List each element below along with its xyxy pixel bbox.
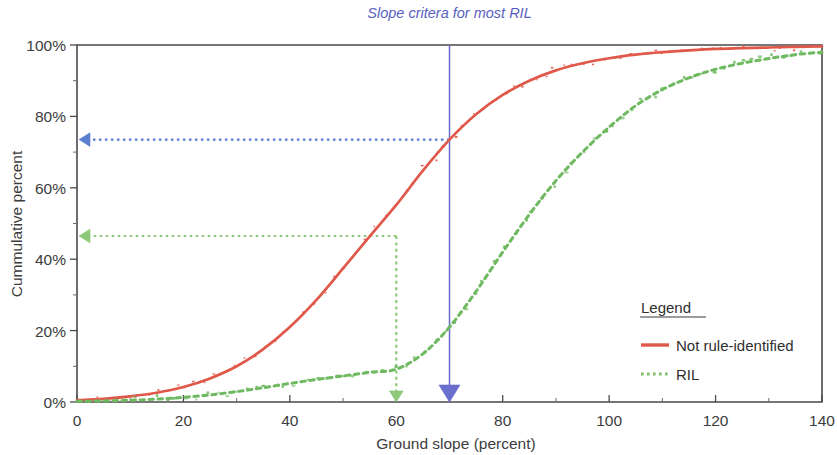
data-point bbox=[781, 56, 786, 59]
x-tick-label: 100 bbox=[596, 412, 622, 429]
data-point bbox=[421, 165, 424, 167]
y-tick-label: 100% bbox=[26, 37, 66, 54]
data-point bbox=[631, 109, 634, 112]
data-point bbox=[711, 47, 713, 49]
data-point bbox=[700, 48, 703, 50]
data-point bbox=[233, 390, 238, 392]
data-point bbox=[689, 76, 694, 79]
data-point bbox=[182, 386, 185, 388]
data-point bbox=[227, 370, 229, 372]
data-point bbox=[605, 130, 608, 133]
data-point bbox=[394, 365, 397, 368]
data-point bbox=[660, 52, 663, 54]
data-point bbox=[506, 93, 509, 95]
data-point bbox=[184, 397, 188, 400]
data-point bbox=[406, 190, 409, 192]
data-point bbox=[435, 338, 439, 341]
data-point bbox=[513, 85, 515, 87]
data-point bbox=[342, 375, 345, 378]
data-point bbox=[306, 378, 309, 380]
data-point bbox=[381, 369, 385, 371]
data-point bbox=[296, 319, 299, 321]
data-point bbox=[493, 260, 497, 263]
data-point bbox=[282, 331, 284, 333]
data-point bbox=[264, 346, 267, 348]
x-axis-title: Ground slope (percent) bbox=[376, 435, 535, 452]
data-point bbox=[435, 159, 437, 161]
data-point bbox=[424, 350, 427, 352]
data-point bbox=[564, 171, 569, 173]
data-point bbox=[592, 63, 594, 65]
legend-item-label: Not rule-identified bbox=[676, 337, 794, 354]
y-tick-label: 60% bbox=[35, 180, 66, 197]
data-point bbox=[473, 113, 475, 115]
data-point bbox=[333, 276, 335, 278]
data-point bbox=[563, 64, 565, 66]
data-point bbox=[441, 145, 444, 147]
data-point bbox=[593, 137, 597, 139]
data-point bbox=[800, 50, 803, 53]
data-point bbox=[536, 78, 538, 80]
data-point bbox=[569, 162, 573, 165]
data-point bbox=[316, 377, 320, 379]
data-point bbox=[313, 303, 316, 305]
data-point bbox=[770, 53, 773, 56]
data-point bbox=[455, 136, 458, 138]
data-point bbox=[654, 96, 657, 99]
data-point bbox=[451, 321, 456, 324]
y-axis-title: Cummulative percent bbox=[8, 150, 25, 297]
data-point bbox=[480, 280, 484, 282]
data-point bbox=[713, 71, 717, 74]
data-point bbox=[302, 311, 305, 313]
data-point bbox=[325, 377, 328, 380]
data-point bbox=[788, 54, 792, 57]
data-point bbox=[570, 64, 573, 66]
data-point bbox=[621, 116, 625, 119]
data-point bbox=[521, 86, 524, 88]
data-point bbox=[206, 391, 209, 394]
data-point bbox=[413, 356, 416, 358]
data-point bbox=[529, 210, 534, 213]
data-point bbox=[373, 370, 376, 373]
data-point bbox=[683, 76, 686, 79]
data-point bbox=[699, 73, 702, 75]
data-point bbox=[364, 371, 369, 374]
data-point bbox=[281, 386, 284, 388]
data-point bbox=[325, 292, 327, 294]
data-point bbox=[604, 59, 606, 61]
data-point bbox=[583, 151, 586, 153]
y-tick-label: 40% bbox=[35, 251, 66, 268]
data-point bbox=[234, 365, 236, 367]
data-point bbox=[225, 395, 229, 397]
data-point bbox=[669, 50, 671, 52]
data-point bbox=[445, 329, 448, 332]
data-point bbox=[619, 57, 622, 59]
data-point bbox=[722, 67, 725, 70]
data-point bbox=[773, 50, 776, 52]
data-point bbox=[629, 53, 632, 55]
data-point bbox=[681, 49, 684, 51]
data-point bbox=[261, 385, 266, 387]
data-point bbox=[483, 108, 485, 110]
data-point bbox=[350, 375, 354, 378]
data-point bbox=[749, 58, 754, 60]
data-point bbox=[742, 45, 745, 47]
data-point bbox=[778, 47, 781, 49]
data-point bbox=[464, 308, 469, 311]
data-point bbox=[195, 398, 198, 400]
chart-figure: Slope critera for most RIL 0204060801001… bbox=[0, 0, 837, 455]
data-point bbox=[583, 63, 585, 65]
legend-item-label: RIL bbox=[676, 366, 699, 383]
y-tick-label: 80% bbox=[35, 108, 66, 125]
data-point bbox=[803, 46, 805, 48]
x-tick-label: 140 bbox=[809, 412, 835, 429]
data-point bbox=[166, 390, 169, 392]
data-point bbox=[255, 386, 258, 388]
data-point bbox=[742, 59, 746, 62]
data-point bbox=[611, 125, 614, 128]
chart-background bbox=[0, 0, 837, 455]
data-point bbox=[157, 389, 160, 391]
data-point bbox=[460, 125, 462, 127]
data-point bbox=[793, 49, 796, 51]
y-tick-label: 20% bbox=[35, 323, 66, 340]
